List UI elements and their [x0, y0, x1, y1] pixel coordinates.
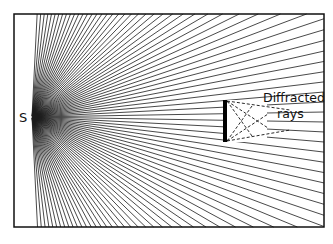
obstacle — [223, 100, 227, 142]
annotation-rays: rays — [277, 106, 304, 121]
annotation-diffracted: Diffracted — [263, 90, 325, 105]
source-label: S — [19, 110, 27, 125]
shadow-region — [227, 100, 267, 142]
diffraction-diagram: S Diffracted rays — [0, 0, 333, 244]
